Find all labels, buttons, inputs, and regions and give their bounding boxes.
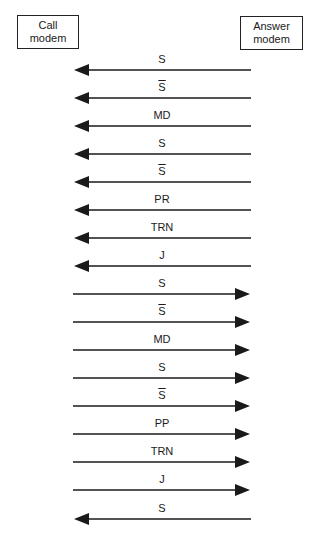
arrowhead-icon xyxy=(235,456,250,468)
arrowhead-icon xyxy=(74,176,89,188)
message-arrow-right xyxy=(73,316,250,328)
message-label: S xyxy=(132,305,192,317)
message-label: S xyxy=(132,53,192,65)
message-arrow-right xyxy=(73,484,250,496)
message-label: MD xyxy=(132,333,192,345)
message-arrow-right xyxy=(73,456,250,468)
message-label: TRN xyxy=(132,221,192,233)
message-label: S xyxy=(132,137,192,149)
arrowhead-icon xyxy=(235,288,250,300)
message-arrow-left xyxy=(74,120,251,132)
message-label: J xyxy=(132,473,192,485)
message-label: S xyxy=(132,502,192,514)
message-arrow-left xyxy=(74,92,251,104)
message-label: S xyxy=(132,81,192,93)
message-arrow-left xyxy=(74,176,251,188)
message-arrow-left xyxy=(74,260,251,272)
arrowhead-icon xyxy=(74,92,89,104)
message-arrow-left xyxy=(74,148,251,160)
message-label: TRN xyxy=(132,445,192,457)
arrowhead-icon xyxy=(74,260,89,272)
message-arrow-right xyxy=(73,428,250,440)
message-arrow-left xyxy=(74,513,251,525)
message-arrow-right xyxy=(73,372,250,384)
message-arrow-left xyxy=(74,64,251,76)
message-arrow-left xyxy=(74,232,251,244)
arrowhead-icon xyxy=(235,344,250,356)
arrowhead-icon xyxy=(74,232,89,244)
arrowhead-icon xyxy=(74,204,89,216)
message-label: J xyxy=(132,249,192,261)
message-label: S xyxy=(132,165,192,177)
message-arrow-left xyxy=(74,204,251,216)
arrowhead-icon xyxy=(74,513,89,525)
message-label: S xyxy=(132,277,192,289)
message-arrow-right xyxy=(73,344,250,356)
arrowhead-icon xyxy=(74,64,89,76)
arrowhead-icon xyxy=(74,120,89,132)
message-label: MD xyxy=(132,109,192,121)
arrowhead-icon xyxy=(235,428,250,440)
arrowhead-icon xyxy=(235,372,250,384)
message-label: S xyxy=(132,389,192,401)
arrowhead-icon xyxy=(235,400,250,412)
arrowhead-icon xyxy=(74,148,89,160)
message-arrow-right xyxy=(73,400,250,412)
message-label: PP xyxy=(132,417,192,429)
message-label: S xyxy=(132,361,192,373)
message-arrow-right xyxy=(73,288,250,300)
message-label: PR xyxy=(132,193,192,205)
arrowhead-icon xyxy=(235,316,250,328)
arrowhead-icon xyxy=(235,484,250,496)
